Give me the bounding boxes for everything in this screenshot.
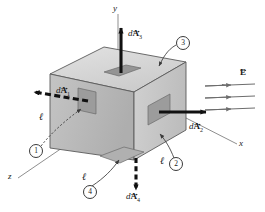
callout-number-3: 3 xyxy=(176,36,190,50)
edge-label-ell-bottom-right: ℓ xyxy=(160,156,164,166)
axis-label-y: y xyxy=(113,4,117,13)
efield-symbol: E xyxy=(240,67,246,77)
dA2-symbol: A xyxy=(194,121,201,131)
edge-label-ell-left: ℓ xyxy=(39,112,43,122)
dA3-symbol: A xyxy=(133,28,140,38)
callout-number-2: 2 xyxy=(169,157,183,171)
efield-line-3 xyxy=(205,108,255,110)
dA2-subscript: 2 xyxy=(200,127,203,133)
dA1-symbol: A xyxy=(61,85,68,95)
vector-label-dA2: dA2 xyxy=(189,122,203,133)
vector-label-dA3: dA3 xyxy=(128,29,142,40)
vector-label-dA1: dA1 xyxy=(56,86,70,97)
efield-line-1 xyxy=(205,84,255,86)
dA4-subscript: 4 xyxy=(137,197,140,203)
callout-number-1: 1 xyxy=(29,144,43,158)
axis-label-z: z xyxy=(8,172,12,181)
physics-diagram-gauss-cube: y x z dA3 dA1 dA2 dA4 E ℓ ℓ ℓ 1 2 3 4 xyxy=(0,0,265,212)
callout-leader-4 xyxy=(92,160,119,186)
efield-label: E xyxy=(240,68,246,77)
efield-line-2 xyxy=(205,96,255,98)
vector-label-dA4: dA4 xyxy=(126,192,140,203)
dA1-subscript: 1 xyxy=(67,91,70,97)
axis-label-x: x xyxy=(239,139,243,148)
dA3-subscript: 3 xyxy=(139,34,142,40)
callout-number-4: 4 xyxy=(83,185,97,199)
dA4-symbol: A xyxy=(131,191,138,201)
edge-label-ell-bottom-left: ℓ xyxy=(82,172,86,182)
